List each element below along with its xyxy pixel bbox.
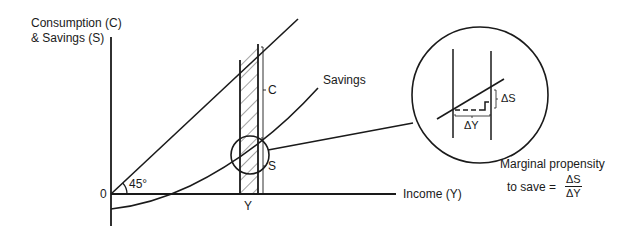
formula-denominator: ΔY — [566, 187, 581, 199]
hatched-income-band — [240, 40, 258, 194]
y-axis-label-line2: & Savings (S) — [31, 31, 104, 46]
formula-line2: to save = — [507, 180, 556, 195]
income-tick-label: Y — [244, 199, 252, 214]
magnifier-connector — [268, 123, 413, 150]
inset-zoom — [412, 27, 548, 163]
formula-line1: Marginal propensity — [500, 157, 605, 172]
origin-label: 0 — [100, 187, 107, 202]
angle-label: 45° — [129, 177, 147, 192]
formula-numerator: ΔS — [565, 174, 582, 187]
inset-delta-y-label: ΔY — [464, 118, 479, 133]
consumption-bracket-label: C — [268, 83, 277, 98]
x-axis-label: Income (Y) — [403, 187, 462, 202]
inset-delta-s-label: ΔS — [501, 91, 516, 106]
curve-label-savings: Savings — [323, 73, 366, 88]
c-s-bracket — [261, 47, 266, 194]
savings-bracket-label: S — [268, 159, 276, 174]
angle-arc — [123, 183, 127, 194]
y-axis-label-line1: Consumption (C) — [31, 16, 122, 31]
formula-fraction: ΔS ΔY — [565, 174, 582, 199]
